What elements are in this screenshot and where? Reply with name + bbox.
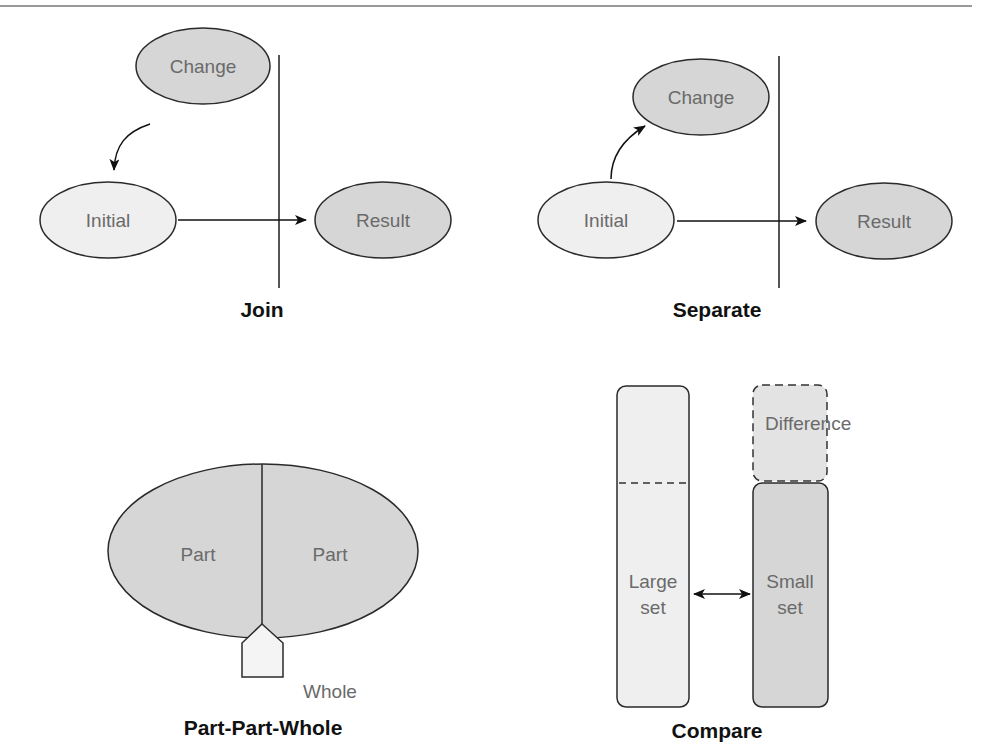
join-title: Join xyxy=(240,298,283,321)
small-set-bar: Small set xyxy=(753,483,828,707)
compare-diagram: Large set Difference Small set Compare xyxy=(617,385,851,742)
part-part-whole-diagram: Part Part Whole Part-Part-Whole xyxy=(108,464,418,739)
separate-initial-node: Initial xyxy=(538,182,674,258)
whole-label: Whole xyxy=(303,681,357,702)
large-set-label-line1: Large xyxy=(629,571,678,592)
join-initial-label: Initial xyxy=(86,210,130,231)
part-right-label: Part xyxy=(313,544,349,565)
part-part-whole-title: Part-Part-Whole xyxy=(184,716,343,739)
separate-diagram: Change Initial Result Separate xyxy=(538,56,952,321)
separate-change-node: Change xyxy=(633,59,769,135)
join-initial-node: Initial xyxy=(40,182,176,258)
join-change-node: Change xyxy=(136,28,270,104)
join-change-label: Change xyxy=(170,56,237,77)
large-set-bar: Large set xyxy=(617,386,689,707)
difference-label: Difference xyxy=(765,413,851,434)
join-result-node: Result xyxy=(315,182,451,258)
compare-title: Compare xyxy=(671,719,762,742)
separate-change-label: Change xyxy=(668,87,735,108)
separate-result-node: Result xyxy=(816,183,952,259)
join-change-to-initial-arrow xyxy=(114,124,150,170)
large-set-label-line2: set xyxy=(640,597,666,618)
small-set-label-line1: Small xyxy=(766,571,814,592)
separate-initial-label: Initial xyxy=(584,210,628,231)
separate-initial-to-change-arrow xyxy=(611,126,645,179)
join-diagram: Change Initial Result Join xyxy=(40,28,451,321)
separate-result-label: Result xyxy=(857,211,912,232)
part-left-label: Part xyxy=(181,544,217,565)
problem-structures-figure: Change Initial Result Join Change Initia… xyxy=(0,0,983,743)
small-set-label-line2: set xyxy=(777,597,803,618)
join-result-label: Result xyxy=(356,210,411,231)
difference-box: Difference xyxy=(753,385,851,481)
whole-ellipse xyxy=(108,464,418,638)
separate-title: Separate xyxy=(673,298,762,321)
